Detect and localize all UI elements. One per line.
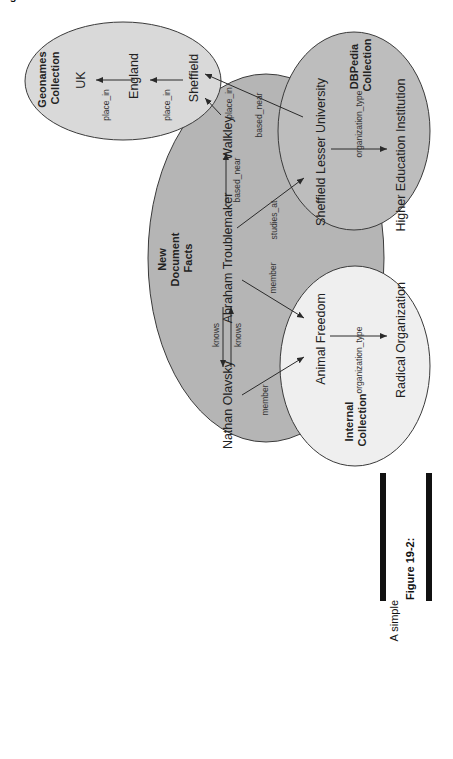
label-abraham-nathan: knows [211, 323, 221, 347]
label-nathan-abraham: knows [233, 323, 243, 347]
node-animal-freedom: Animal Freedom [314, 293, 328, 385]
caption-text: Figure 19-2: [0, 0, 62, 2]
node-uk: UK [74, 71, 88, 89]
node-walkley: Walkley [221, 116, 235, 160]
label-sheffield-england: place_in [162, 89, 172, 121]
node-higher-education-institution: Higher Education Institution [394, 79, 408, 232]
geonames-title: Geonames Collection [36, 48, 61, 107]
node-radical-organization: Radical Organization [394, 282, 408, 398]
caption-label: Figure 19-2: [404, 538, 416, 600]
label-slu-hei: organization_type [354, 90, 364, 157]
label-abraham-walkley: based_near [232, 157, 242, 202]
node-nathan-olavsky: Nathan Olavsky [221, 360, 235, 449]
node-sheffield: Sheffield [187, 54, 201, 102]
ontology-graph-diagram: Geonames Collection New Document Facts D… [0, 0, 453, 759]
label-abraham-af: member [268, 262, 278, 293]
internal-title: Internal Collection [343, 393, 368, 446]
node-abraham-troublemaker: Abraham Troublemaker [221, 193, 235, 324]
node-sheffield-lesser-university: Sheffield Lesser University [314, 77, 328, 226]
label-abraham-slu: studies_at [269, 200, 279, 239]
label-england-uk: place_in [101, 89, 111, 121]
caption-block [384, 473, 453, 515]
node-england: England [127, 53, 141, 99]
label-walkley-sheffield: place_in [224, 87, 234, 119]
label-af-ro: organization_type [354, 326, 364, 393]
label-nathan-af: member [260, 384, 270, 415]
label-slu-sheffield: based_near [254, 92, 264, 137]
dbpedia-title: DBPedia Collection [348, 38, 373, 91]
